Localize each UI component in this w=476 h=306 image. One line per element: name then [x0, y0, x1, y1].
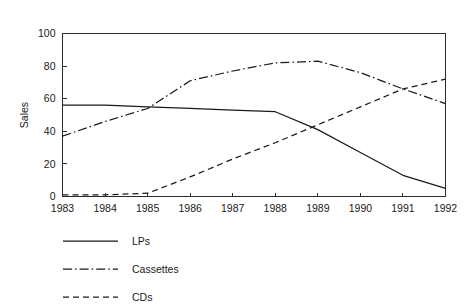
y-tick-label: 40: [44, 125, 56, 137]
legend-label-lps: LPs: [132, 235, 150, 247]
y-tick-label: 60: [44, 92, 56, 104]
x-tick-label: 1991: [391, 202, 415, 214]
legend-label-cassettes: Cassettes: [132, 263, 179, 275]
plot-frame: [63, 34, 446, 197]
x-tick-label: 1985: [136, 202, 160, 214]
chart-figure: 020406080100 198319841985198619871988198…: [0, 0, 476, 306]
x-tick-label: 1987: [221, 202, 245, 214]
x-tick-label: 1992: [434, 202, 458, 214]
series-line-cassettes: [63, 61, 446, 136]
x-axis: 1983198419851986198719881989199019911992: [51, 193, 458, 214]
x-tick-label: 1988: [264, 202, 288, 214]
x-tick-label: 1990: [349, 202, 373, 214]
chart-legend: LPsCassettesCDs: [63, 235, 179, 303]
series-line-lps: [63, 105, 446, 188]
x-tick-label: 1989: [306, 202, 330, 214]
line-chart: 020406080100 198319841985198619871988198…: [0, 0, 476, 306]
y-axis-title: Sales: [18, 102, 30, 128]
series-layer: [63, 61, 446, 195]
x-tick-label: 1984: [93, 202, 117, 214]
y-tick-label: 80: [44, 60, 56, 72]
x-tick-label: 1983: [51, 202, 75, 214]
y-axis-title-text: Sales: [18, 102, 30, 128]
series-line-cds: [63, 79, 446, 195]
y-tick-label: 0: [50, 190, 56, 202]
x-tick-label: 1986: [178, 202, 202, 214]
legend-label-cds: CDs: [132, 291, 152, 303]
y-tick-label: 20: [44, 158, 56, 170]
y-tick-label: 100: [38, 27, 56, 39]
